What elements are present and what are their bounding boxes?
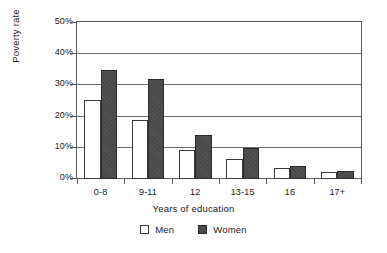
y-tick-label: 20%: [21, 111, 73, 120]
x-axis-title: Years of education: [0, 203, 387, 214]
x-tick-label: 17+: [307, 187, 367, 197]
y-tick-label: 30%: [21, 79, 73, 88]
x-tick-mark: [266, 179, 267, 184]
bar-men-0-8: [84, 100, 100, 179]
bar-women-9-11: [148, 79, 164, 179]
bar-men-17+: [321, 172, 337, 179]
y-tick-mark: [70, 53, 76, 54]
bar-women-16: [290, 166, 306, 179]
x-tick-mark: [77, 179, 78, 184]
bar-group: [314, 22, 361, 179]
y-tick-mark: [70, 84, 76, 85]
bar-women-0-8: [101, 70, 117, 180]
bar-group: [219, 22, 266, 179]
y-axis-title: Poverty rate: [10, 0, 24, 86]
bar-group: [77, 22, 124, 179]
bar-group: [172, 22, 219, 179]
chart-legend: Men Women: [0, 224, 387, 235]
legend-item-men: Men: [140, 224, 174, 235]
x-tick-mark: [124, 179, 125, 184]
legend-label-men: Men: [155, 224, 174, 235]
y-tick-label: 40%: [21, 48, 73, 57]
legend-label-women: Women: [213, 224, 247, 235]
y-tick-mark: [70, 178, 76, 179]
y-tick-mark: [70, 116, 76, 117]
bars-layer: [77, 22, 361, 179]
bar-men-9-11: [132, 120, 148, 179]
x-tick-mark: [361, 179, 362, 184]
y-tick-label: 50%: [21, 17, 73, 26]
y-tick-label: 10%: [21, 142, 73, 151]
bar-men-12: [179, 150, 195, 179]
y-tick-mark: [70, 22, 76, 23]
legend-swatch-men-icon: [140, 225, 149, 234]
bar-men-13-15: [226, 159, 242, 179]
y-tick-label: 0%: [21, 173, 73, 182]
x-tick-mark: [314, 179, 315, 184]
bar-women-17+: [337, 171, 353, 179]
y-tick-mark: [70, 147, 76, 148]
bar-women-13-15: [243, 148, 259, 179]
bar-group: [266, 22, 313, 179]
x-tick-mark: [219, 179, 220, 184]
bar-group: [124, 22, 171, 179]
bar-men-16: [274, 168, 290, 179]
bar-women-12: [195, 135, 211, 179]
legend-swatch-women-icon: [198, 225, 207, 234]
poverty-rate-bar-chart: Poverty rate 0%10%20%30%40%50% 0-89-1112…: [0, 0, 387, 253]
legend-item-women: Women: [198, 224, 247, 235]
x-tick-mark: [172, 179, 173, 184]
